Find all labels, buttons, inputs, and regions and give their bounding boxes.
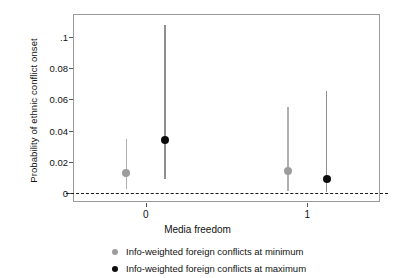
y-tick-label: .1 <box>60 32 68 43</box>
legend-item: Info-weighted foreign conflicts at maxim… <box>0 260 395 277</box>
confidence-interval-bar <box>164 25 165 179</box>
chart-legend: Info-weighted foreign conflicts at minim… <box>0 243 395 277</box>
y-axis-title: Probability of ethnic conflict onset <box>28 16 39 206</box>
y-tick-mark <box>69 68 73 69</box>
legend-item: Info-weighted foreign conflicts at minim… <box>0 243 395 260</box>
y-tick-mark <box>69 37 73 38</box>
x-tick-label: 1 <box>305 209 311 220</box>
x-tick-mark <box>307 203 308 207</box>
plot-area <box>73 14 380 202</box>
chart-figure: Probability of ethnic conflict onset 00.… <box>0 0 395 278</box>
y-tick-label: 0.02 <box>50 156 69 167</box>
y-tick-mark <box>69 131 73 132</box>
legend-marker-icon <box>112 249 118 255</box>
y-tick-label: 0.06 <box>50 94 69 105</box>
data-point <box>323 175 331 183</box>
data-point <box>284 167 292 175</box>
legend-marker-icon <box>112 266 118 272</box>
data-point <box>161 136 169 144</box>
x-axis-title: Media freedom <box>0 224 395 235</box>
zero-reference-line <box>66 193 388 194</box>
x-tick-label: 0 <box>143 209 149 220</box>
confidence-interval-bar <box>126 139 127 189</box>
y-tick-label: 0.04 <box>50 125 69 136</box>
y-tick-mark <box>69 162 73 163</box>
y-tick-label: 0.08 <box>50 63 69 74</box>
confidence-interval-bar <box>287 107 288 191</box>
legend-label: Info-weighted foreign conflicts at minim… <box>126 246 303 257</box>
legend-label: Info-weighted foreign conflicts at maxim… <box>126 263 306 274</box>
y-tick-mark <box>69 99 73 100</box>
x-tick-mark <box>146 203 147 207</box>
data-point <box>122 169 130 177</box>
